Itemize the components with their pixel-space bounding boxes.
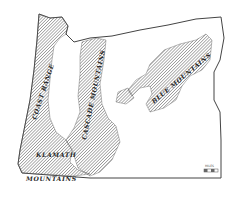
label-klamath-mountains: MOUNTAINS: [25, 175, 77, 182]
label-klamath: KLAMATH: [35, 151, 77, 158]
oregon-map: COAST RANGE CASCADE MOUNTAINS KLAMATH MO…: [0, 0, 247, 197]
svg-text:MILES: MILES: [205, 164, 214, 168]
